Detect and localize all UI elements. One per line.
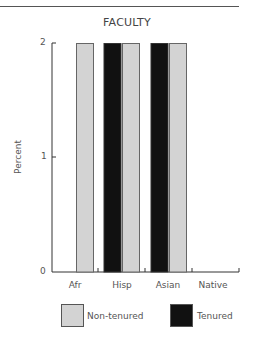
x-label-afr: Afr <box>55 280 95 290</box>
bar-hisp-tenured <box>104 44 121 273</box>
bar-asian-tenured <box>151 44 168 273</box>
legend-label-nontenured: Non-tenured <box>87 311 143 321</box>
plot-area <box>0 0 254 352</box>
x-label-native: Native <box>193 280 233 290</box>
bar-asian-nontenured <box>170 44 187 273</box>
x-label-asian: Asian <box>148 280 188 290</box>
x-label-hisp: Hisp <box>102 280 142 290</box>
bar-afr-nontenured <box>77 44 94 273</box>
legend-swatch-tenured <box>170 304 193 327</box>
legend-swatch-nontenured <box>61 304 84 327</box>
legend-label-tenured: Tenured <box>197 311 233 321</box>
bar-hisp-nontenured <box>123 44 140 273</box>
